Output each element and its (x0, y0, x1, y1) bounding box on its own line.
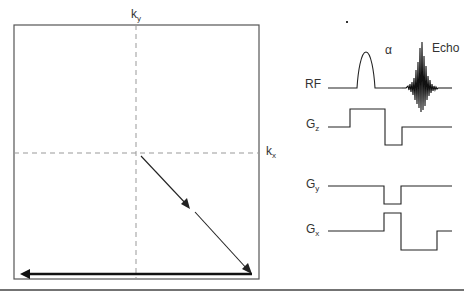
ky-label: ky (131, 8, 141, 25)
gx-label-sub: x (315, 229, 319, 238)
gx-label-main: G (306, 222, 315, 236)
dot-mark (346, 21, 348, 23)
trajectory-diagonal-1 (141, 156, 188, 206)
gz-waveform (328, 109, 452, 145)
ky-label-sub: y (137, 14, 141, 23)
trajectory-diagonal-2 (195, 212, 248, 270)
rf-label: RF (305, 78, 321, 90)
gy-waveform (328, 186, 452, 204)
kx-label-sub: x (272, 151, 276, 160)
gy-label: Gy (306, 178, 319, 195)
echo-label: Echo (432, 42, 459, 54)
arrowhead-left-icon (20, 269, 30, 279)
gy-label-main: G (306, 177, 315, 191)
gx-waveform (328, 213, 452, 250)
gx-label: Gx (306, 223, 319, 240)
gz-label: Gz (306, 118, 319, 135)
gz-label-sub: z (315, 124, 319, 133)
gz-label-main: G (306, 117, 315, 131)
rf-waveform (328, 52, 402, 88)
alpha-label: α (385, 44, 392, 56)
kx-label: kx (266, 145, 276, 162)
diagram-canvas (0, 0, 464, 294)
gy-label-sub: y (315, 184, 319, 193)
